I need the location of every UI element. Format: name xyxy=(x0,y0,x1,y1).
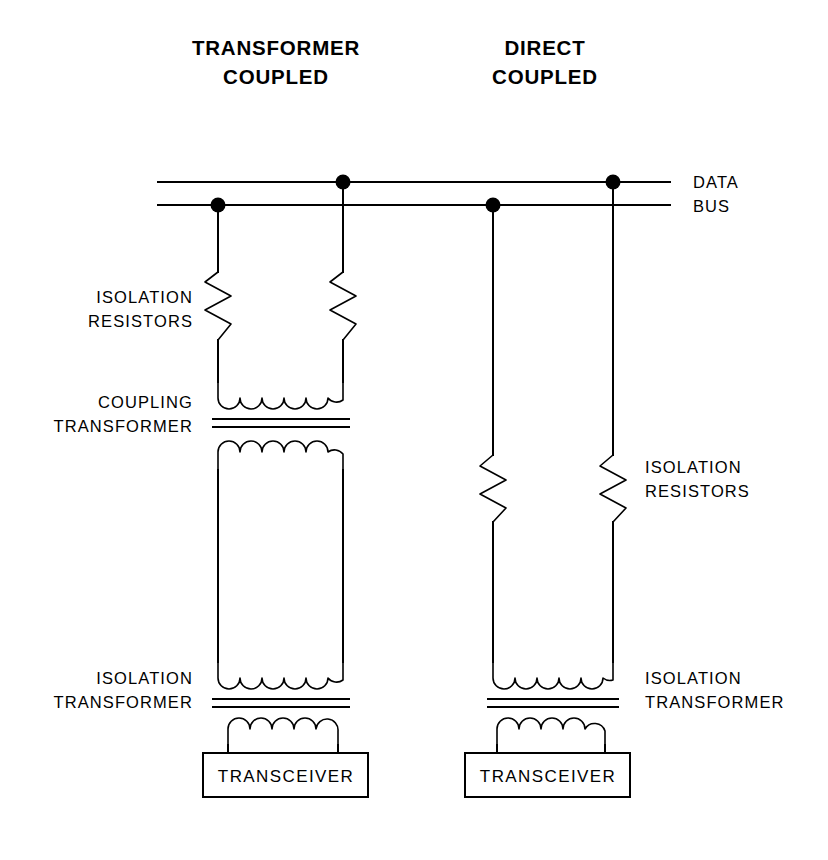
coupling-transformer-label-line1: COUPLING xyxy=(98,393,193,411)
heading-left-line1: TRANSFORMER xyxy=(192,36,360,59)
left-stub-tap-b-dot xyxy=(336,175,351,190)
direct-coupled-branch: ISOLATION RESISTORS ISOLATION TRANSFORME… xyxy=(465,175,785,798)
coupling-transformer-primary-winding xyxy=(218,382,343,409)
right-isolation-resistor-b xyxy=(600,455,626,522)
isolation-resistors-left-label-line2: RESISTORS xyxy=(88,312,193,330)
isolation-transformer-right-primary-winding xyxy=(493,662,613,689)
data-bus-label-line1: DATA xyxy=(693,173,739,191)
isolation-transformer-left-label-line2: TRANSFORMER xyxy=(53,693,193,711)
isolation-transformer-left-secondary-winding xyxy=(228,718,338,745)
isolation-resistors-left-label-line1: ISOLATION xyxy=(96,288,193,306)
transformer-coupled-branch: ISOLATION RESISTORS COUPLING TRANSFORMER xyxy=(53,175,368,798)
coupling-transformer-secondary-winding xyxy=(218,441,343,470)
left-isolation-resistor-a xyxy=(205,272,231,340)
transceiver-left[interactable]: TRANSCEIVER xyxy=(203,753,368,797)
right-isolation-resistor-a xyxy=(480,455,506,522)
data-bus-label-line2: BUS xyxy=(693,197,730,215)
isolation-transformer-right-secondary-winding xyxy=(497,718,605,745)
right-stub-tap-b-dot xyxy=(606,175,621,190)
transceiver-right-label: TRANSCEIVER xyxy=(480,767,616,786)
left-stub-tap-a-dot xyxy=(211,198,226,213)
diagram-canvas: TRANSFORMER COUPLED DIRECT COUPLED DATA … xyxy=(0,0,828,860)
data-bus: DATA BUS xyxy=(158,173,739,215)
heading-direct-coupled: DIRECT COUPLED xyxy=(492,36,598,88)
isolation-transformer-left-primary-winding xyxy=(218,662,343,689)
isolation-transformer-right xyxy=(487,662,619,745)
right-stub-tap-a-dot xyxy=(486,198,501,213)
heading-right-line1: DIRECT xyxy=(504,36,585,59)
isolation-transformer-right-label-line1: ISOLATION xyxy=(645,669,742,687)
isolation-transformer-left xyxy=(212,662,350,745)
left-isolation-resistor-b xyxy=(330,272,356,340)
transceiver-right[interactable]: TRANSCEIVER xyxy=(465,753,630,797)
coupling-transformer xyxy=(212,382,350,470)
heading-right-line2: COUPLED xyxy=(492,65,598,88)
isolation-resistors-right-label-line1: ISOLATION xyxy=(645,458,742,476)
heading-transformer-coupled: TRANSFORMER COUPLED xyxy=(192,36,360,88)
isolation-resistors-right-label-line2: RESISTORS xyxy=(645,482,750,500)
isolation-transformer-right-label-line2: TRANSFORMER xyxy=(645,693,785,711)
heading-left-line2: COUPLED xyxy=(223,65,329,88)
bus-coupling-schematic: TRANSFORMER COUPLED DIRECT COUPLED DATA … xyxy=(0,0,828,860)
transceiver-left-label: TRANSCEIVER xyxy=(218,767,354,786)
isolation-transformer-left-label-line1: ISOLATION xyxy=(96,669,193,687)
coupling-transformer-label-line2: TRANSFORMER xyxy=(53,417,193,435)
